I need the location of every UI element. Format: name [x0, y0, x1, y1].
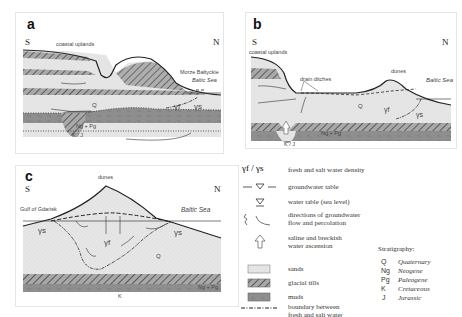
cross-section-a — [16, 13, 223, 153]
legend-text-muds: muds — [288, 293, 303, 301]
cross-section-b — [246, 13, 456, 148]
legend-item-sea-level: water table (sea level) — [240, 195, 462, 209]
dunes-label-c: dunes — [98, 174, 113, 180]
glacial-tills-swatch — [240, 276, 280, 290]
legend-text-sands: sands — [288, 265, 304, 273]
south-label-c: S — [25, 184, 30, 194]
legend-text-groundwater-table: groundwater table — [288, 183, 339, 191]
sea-name-en-a: Baltic Sea — [192, 77, 217, 83]
stratigraphy-title: Stratigraphy: — [378, 245, 415, 253]
gamma-f-a: γf — [174, 102, 180, 111]
unit-k-c: K — [118, 293, 122, 299]
panel-a: a S N coastal uplands Morze Bałtyckie Ba… — [15, 12, 224, 154]
unit-kj-b: K / J — [284, 141, 295, 147]
unit-q-c: Q — [156, 253, 161, 259]
south-label-b: S — [252, 37, 257, 47]
strat-name-q: Quaternary — [398, 258, 431, 266]
gamma-s-a: γs — [194, 102, 202, 111]
legend-text-tills: glacial tills — [288, 279, 319, 287]
legend-text-boundary-line2: fresh and salt water — [288, 311, 343, 317]
coastal-uplands-label-b: coastal uplands — [249, 49, 287, 55]
density-symbol: γf / γs — [242, 163, 282, 177]
legend-text-ascension-line2: water ascension — [288, 242, 342, 250]
strat-code-pg: Pg — [381, 276, 390, 283]
panel-label-b: b — [253, 16, 262, 32]
panel-label-c: c — [25, 168, 33, 184]
sands-swatch — [240, 262, 280, 276]
legend-text-boundary: boundary between fresh and salt water — [288, 303, 343, 317]
gamma-f-c: γf — [104, 238, 110, 247]
gamma-f-b: γf — [384, 106, 389, 113]
gamma-s-left-c: γs — [38, 226, 46, 235]
legend-item-groundwater-table: groundwater table — [240, 180, 462, 194]
legend-item-density: γf / γs fresh and salt water density — [240, 163, 462, 177]
legend-text-flow-line1: directions of groundwater — [288, 211, 360, 219]
boundary-line-icon — [240, 303, 280, 317]
legend-text-boundary-line1: boundary between — [288, 303, 343, 311]
strat-name-k: Cretaceous — [398, 285, 430, 293]
strat-code-j: J — [382, 294, 386, 301]
sea-level-icon — [240, 195, 280, 209]
unit-ngpg-c: Ng + Pg — [198, 284, 218, 290]
legend-text-density: fresh and salt water density — [288, 166, 365, 174]
stratigraphy: Stratigraphy: Q Quaternary Ng Neogene Pg… — [378, 245, 462, 315]
unit-ngpg-b: Ng + Pg — [321, 130, 341, 136]
groundwater-table-icon — [240, 180, 280, 194]
unit-kj-a: K / J — [72, 132, 83, 138]
strat-name-pg: Paleogene — [398, 276, 428, 284]
legend-text-flow: directions of groundwater flow and perco… — [288, 211, 360, 227]
muds-swatch — [240, 290, 280, 304]
strat-code-ng: Ng — [381, 267, 390, 274]
dunes-label-b: dunes — [391, 68, 406, 74]
gamma-s-b: γs — [416, 111, 423, 118]
legend-text-sea-level: water table (sea level) — [288, 198, 350, 206]
sea-name-c: Baltic Sea — [181, 206, 210, 213]
south-label-a: S — [25, 37, 30, 47]
panel-c: c S N dunes Gulf of Gdańsk Baltic Sea γs… — [15, 165, 239, 307]
drain-ditches-label: drain ditches — [300, 76, 331, 82]
north-label-c: N — [214, 184, 221, 194]
unit-ngpg-a: Ng + Pg — [76, 123, 96, 129]
north-label-a: N — [213, 37, 220, 47]
strat-code-k: K — [381, 285, 386, 292]
strat-name-ng: Neogene — [398, 267, 423, 275]
gamma-s-right-c: γs — [174, 228, 182, 237]
legend-item-flow: directions of groundwater flow and perco… — [240, 210, 462, 230]
gulf-label: Gulf of Gdańsk — [20, 206, 57, 212]
strat-code-q: Q — [381, 258, 386, 265]
sea-name-pl-a: Morze Bałtyckie — [180, 69, 219, 75]
strat-name-j: Jurassic — [398, 294, 421, 302]
panel-label-a: a — [27, 16, 35, 32]
up-arrow-icon — [240, 233, 280, 253]
panel-b: b S N coastal uplands drain ditches dune… — [245, 12, 457, 149]
unit-q-b: Q — [358, 103, 363, 109]
unit-q-a: Q — [92, 102, 97, 108]
coastal-uplands-label-a: coastal uplands — [56, 41, 94, 47]
sea-name-b: Baltic Sea — [426, 77, 453, 83]
legend-text-ascension: saline and breckish water ascension — [288, 234, 342, 250]
legend-text-flow-line2: flow and percolation — [288, 219, 360, 227]
legend-text-ascension-line1: saline and breckish — [288, 234, 342, 242]
north-label-b: N — [442, 37, 449, 47]
flow-arrows-icon — [240, 210, 280, 230]
